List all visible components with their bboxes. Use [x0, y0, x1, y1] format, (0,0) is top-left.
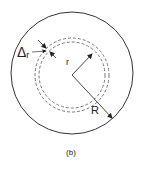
outer-radius-label: R [91, 104, 99, 116]
figure-caption: (b) [66, 148, 76, 157]
outer-circle [11, 12, 133, 134]
delta-r-leader [32, 51, 46, 52]
delta-r-arrow-outer [38, 40, 46, 48]
delta-r-arrow-inner [50, 52, 56, 58]
radius-r-arrow [72, 54, 92, 75]
delta-r-label: Δr [17, 44, 29, 60]
inner-radius-label: r [66, 57, 69, 67]
ring-diagram: Δr r R (b) [0, 0, 143, 169]
